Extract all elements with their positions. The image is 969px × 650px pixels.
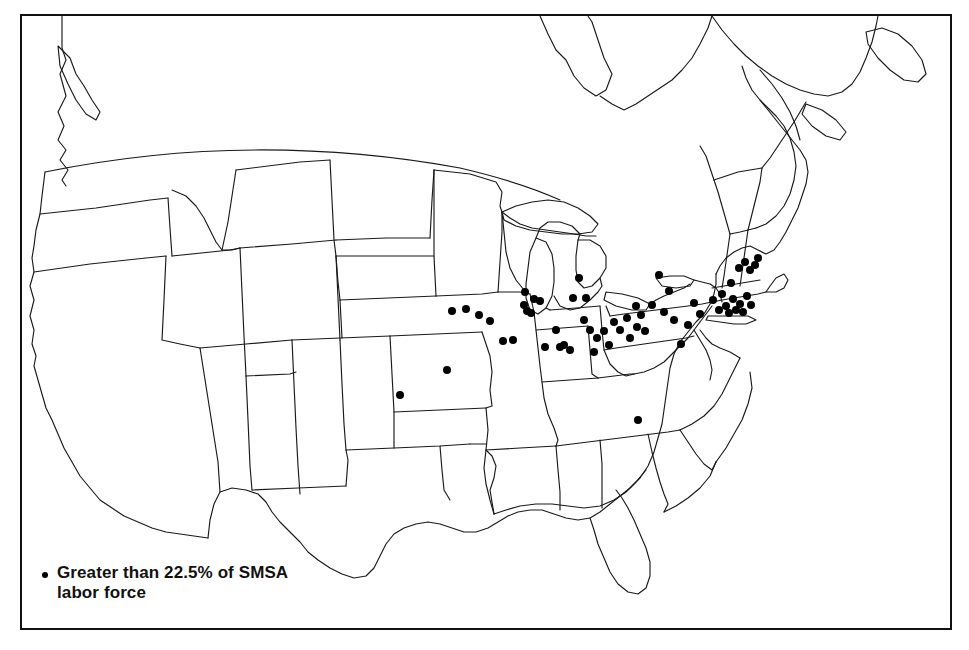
legend-dot-icon: [42, 572, 48, 578]
legend-label: Greater than 22.5% of SMSA labor force: [57, 563, 288, 603]
map-figure: Greater than 22.5% of SMSA labor force: [0, 0, 969, 650]
map-border-frame: [20, 14, 952, 630]
legend: Greater than 22.5% of SMSA labor force: [42, 563, 288, 603]
